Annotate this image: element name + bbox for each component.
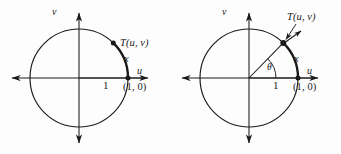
arc-length-x-label: x: [294, 54, 299, 65]
figure-unit-circle-wrapping: v u T(u, v) x 1 (1, 0): [0, 0, 341, 154]
v-axis-label: v: [52, 7, 57, 17]
point-T-dot: [111, 40, 116, 45]
point-T-dot: [280, 40, 286, 46]
panel-right-unit-circle-theta: v u T(u, v) x θ 1 (1, 0): [170, 0, 341, 154]
point-T-label: T(u, v): [120, 38, 149, 49]
tick-one-label: 1: [273, 80, 279, 91]
label-leader-line: [286, 24, 296, 40]
radius-line-to-T: [249, 43, 283, 78]
point-one-zero-dot: [296, 76, 301, 81]
point-T-label: T(u, v): [287, 12, 316, 23]
point-one-zero-label: (1, 0): [123, 82, 146, 93]
panel-left-unit-circle: v u T(u, v) x 1 (1, 0): [0, 0, 171, 154]
arc-length-x-label: x: [124, 54, 129, 65]
u-axis-label: u: [307, 66, 312, 76]
tick-one-label: 1: [103, 80, 109, 91]
point-one-zero-dot: [126, 76, 131, 81]
v-axis-label: v: [222, 7, 227, 17]
point-one-zero-label: (1, 0): [293, 82, 316, 93]
u-axis-label: u: [137, 66, 142, 76]
angle-theta-label: θ: [267, 63, 272, 73]
